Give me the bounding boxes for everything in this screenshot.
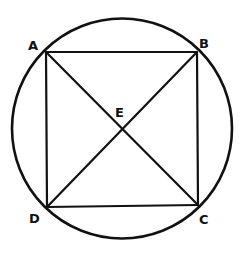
square-and-diagonals — [46, 52, 198, 207]
geometry-diagram: A B C D E — [0, 0, 246, 254]
side-da — [46, 52, 47, 207]
label-c: C — [199, 212, 209, 227]
label-d: D — [29, 211, 40, 226]
side-cd — [47, 205, 198, 207]
label-e: E — [115, 105, 124, 120]
side-bc — [197, 52, 198, 205]
label-b: B — [199, 36, 209, 51]
label-a: A — [28, 38, 38, 53]
